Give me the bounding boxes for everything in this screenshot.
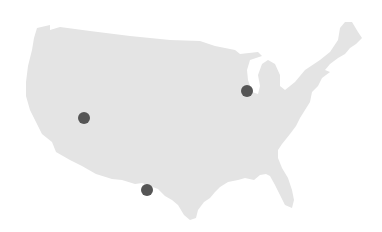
marker-midwest-pin-icon[interactable]	[241, 85, 253, 97]
map-container	[0, 0, 382, 232]
marker-southwest-pin-icon[interactable]	[141, 184, 153, 196]
us-land-shape	[26, 22, 362, 220]
us-map	[0, 0, 382, 232]
marker-west-pin-icon[interactable]	[78, 112, 90, 124]
